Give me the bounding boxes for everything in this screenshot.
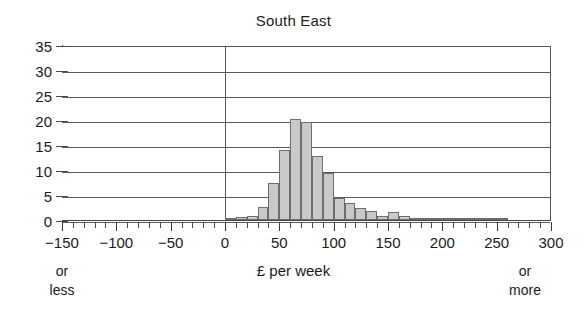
x-axis-tick-major: [497, 222, 498, 231]
histogram-bar: [377, 216, 388, 220]
x-axis-tick-major: [551, 222, 552, 231]
histogram-bar: [268, 183, 279, 220]
x-axis-tick-label: 250: [467, 234, 527, 251]
histogram-bar: [486, 218, 497, 220]
histogram-bar: [464, 218, 475, 220]
x-axis-tick-label: 100: [304, 234, 364, 251]
x-axis-tick-label: 50: [249, 234, 309, 251]
y-axis-tick-label: 35: [10, 38, 52, 55]
x-axis-ticks: [62, 222, 551, 232]
histogram-bar: [410, 218, 421, 220]
chart-title: South East: [0, 12, 587, 29]
x-axis-tick-minor: [301, 222, 302, 228]
histogram-bar: [312, 156, 323, 221]
x-axis-tick-minor: [138, 222, 139, 228]
x-axis-tick-minor: [160, 222, 161, 228]
x-axis-tick-minor: [182, 222, 183, 228]
histogram-bar: [442, 218, 453, 220]
x-axis-tick-major: [116, 222, 117, 231]
x-axis-tick-label: 0: [195, 234, 255, 251]
x-axis-tick-minor: [214, 222, 215, 228]
histogram-bar: [475, 218, 486, 220]
y-axis-tick-label: 10: [10, 163, 52, 180]
x-axis-tick-minor: [312, 222, 313, 228]
x-axis-tick-minor: [518, 222, 519, 228]
x-axis-tick-minor: [486, 222, 487, 228]
x-axis-tick-minor: [540, 222, 541, 228]
x-axis-tick-minor: [399, 222, 400, 228]
y-axis-tick: [56, 146, 68, 147]
left-axis-note-line1: or: [22, 262, 102, 281]
x-axis-tick-minor: [258, 222, 259, 228]
x-axis-tick-minor: [236, 222, 237, 228]
y-axis-tick-label: 20: [10, 113, 52, 130]
x-axis-tick-minor: [323, 222, 324, 228]
histogram-bar: [421, 218, 432, 220]
y-axis-tick: [56, 196, 68, 197]
x-axis-tick-label: −50: [141, 234, 201, 251]
x-axis-tick-minor: [73, 222, 74, 228]
histogram-bar: [323, 173, 334, 221]
plot-area: [62, 46, 551, 221]
chart-figure: South East 05101520253035 −150−100−50050…: [0, 0, 587, 325]
x-axis-tick-minor: [95, 222, 96, 228]
x-axis-tick-major: [388, 222, 389, 231]
histogram-bar: [301, 122, 312, 221]
x-axis-tick-minor: [290, 222, 291, 228]
x-axis-tick-label: 200: [412, 234, 472, 251]
x-axis-tick-minor: [453, 222, 454, 228]
x-axis-tick-minor: [105, 222, 106, 228]
x-axis-tick-minor: [475, 222, 476, 228]
histogram-bar: [258, 207, 269, 221]
x-axis-tick-major: [334, 222, 335, 231]
x-axis-tick-label: −150: [32, 234, 92, 251]
y-axis-tick-label: 30: [10, 63, 52, 80]
right-axis-note-line1: or: [485, 262, 565, 281]
histogram-bar: [399, 216, 410, 220]
x-axis-tick-minor: [410, 222, 411, 228]
y-axis-tick-label: 5: [10, 188, 52, 205]
histogram-bar: [388, 212, 399, 220]
right-axis-note-line2: more: [485, 281, 565, 300]
left-axis-note-line2: less: [22, 281, 102, 300]
x-axis-tick-minor: [247, 222, 248, 228]
histogram-bar: [290, 119, 301, 221]
histogram-bar: [497, 218, 508, 220]
y-axis-tick: [56, 96, 68, 97]
histogram-bars: [62, 47, 550, 220]
x-axis-tick-minor: [529, 222, 530, 228]
x-axis-tick-minor: [421, 222, 422, 228]
x-axis-tick-minor: [366, 222, 367, 228]
x-axis-tick-major: [225, 222, 226, 231]
x-axis-tick-label: 150: [358, 234, 418, 251]
x-axis-tick-label: −100: [86, 234, 146, 251]
y-axis-tick-label: 0: [10, 213, 52, 230]
y-axis-tick: [56, 46, 68, 47]
x-axis-tick-minor: [268, 222, 269, 228]
y-axis-tick: [56, 221, 68, 222]
x-axis-tick-minor: [464, 222, 465, 228]
x-axis-tick-major: [62, 222, 63, 231]
right-axis-note: or more: [485, 262, 565, 300]
x-axis-tick-major: [442, 222, 443, 231]
histogram-bar: [247, 216, 258, 221]
histogram-bar: [334, 198, 345, 221]
x-axis-tick-minor: [149, 222, 150, 228]
x-axis-tick-minor: [192, 222, 193, 228]
y-axis-tick: [56, 121, 68, 122]
y-axis-tick-label: 25: [10, 88, 52, 105]
x-axis-tick-major: [171, 222, 172, 231]
histogram-bar: [431, 218, 442, 220]
x-axis-tick-minor: [127, 222, 128, 228]
x-axis-tick-minor: [84, 222, 85, 228]
y-axis-tick: [56, 171, 68, 172]
left-axis-note: or less: [22, 262, 102, 300]
histogram-bar: [225, 218, 236, 220]
histogram-bar: [236, 217, 247, 220]
x-axis-tick-minor: [203, 222, 204, 228]
histogram-bar: [453, 218, 464, 220]
x-axis-tick-minor: [345, 222, 346, 228]
x-axis-tick-label: 300: [521, 234, 581, 251]
x-axis-tick-minor: [508, 222, 509, 228]
x-axis-tick-major: [279, 222, 280, 231]
